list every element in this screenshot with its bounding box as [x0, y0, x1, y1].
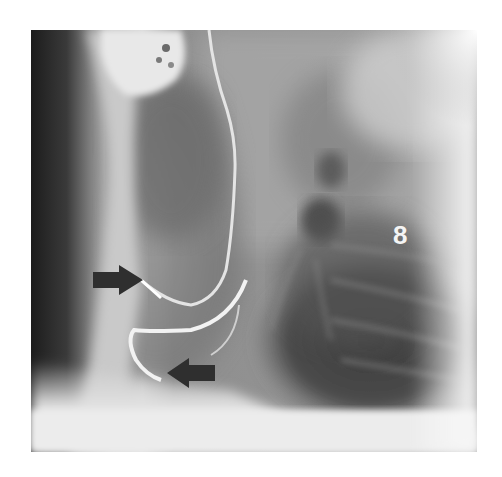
figure-label: 8 [393, 220, 407, 251]
right-arrow-icon [93, 265, 143, 295]
xray-image: 8 [31, 30, 477, 452]
xray-rendering [31, 30, 477, 452]
left-arrow-icon [167, 358, 215, 388]
